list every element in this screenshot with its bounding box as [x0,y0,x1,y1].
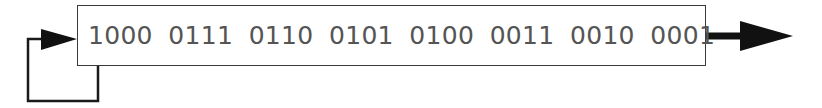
nibble-7: 0010 [570,21,635,50]
output-arrowhead-icon [740,21,793,51]
nibble-6: 0011 [490,21,555,50]
nibble-2: 0111 [168,21,233,50]
shift-register-diagram: 1000 0111 0110 0101 0100 0011 0010 0001 [0,0,822,108]
nibble-8: 0001 [650,21,715,50]
register-bits: 1000 0111 0110 0101 0100 0011 0010 0001 [88,21,715,50]
nibble-1: 1000 [88,21,153,50]
nibble-4: 0101 [329,21,394,50]
nibble-3: 0110 [249,21,314,50]
input-arrowhead-icon [41,29,77,50]
nibble-5: 0100 [409,21,474,50]
